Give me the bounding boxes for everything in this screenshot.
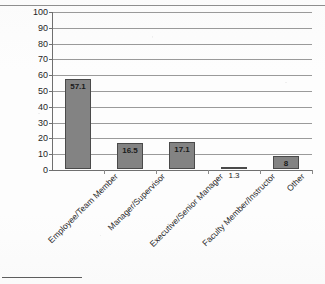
- bar-series: 57.116.517.11.38: [52, 12, 312, 170]
- y-tick-label-100: 100: [8, 8, 48, 17]
- bar-value-label: 16.5: [122, 147, 138, 155]
- x-category-label: Employee/Team Member: [47, 172, 120, 245]
- y-tick-label-80: 80: [8, 40, 48, 49]
- y-tick-label-60: 60: [8, 71, 48, 80]
- bar-value-label: 57.1: [70, 83, 86, 91]
- y-tick-label-40: 40: [8, 103, 48, 112]
- x-category-label: Other: [285, 172, 306, 193]
- bar-slot: 1.3: [208, 167, 260, 169]
- y-tick-label-90: 90: [8, 24, 48, 33]
- bar-slot: 8: [260, 156, 312, 169]
- bar[interactable]: 16.5: [117, 143, 143, 169]
- bar-slot: 17.1: [156, 142, 208, 169]
- y-tick-label-30: 30: [8, 119, 48, 128]
- bar-slot: 57.1: [52, 79, 104, 169]
- bar-value-label: 8: [284, 160, 288, 168]
- y-tick-label-50: 50: [8, 87, 48, 96]
- header-divider-rule: [0, 5, 325, 6]
- y-tick-label-0: 0: [8, 166, 48, 175]
- y-tick-label-20: 20: [8, 134, 48, 143]
- y-tick-label-10: 10: [8, 150, 48, 159]
- x-axis-category-labels: Employee/Team MemberManager/SupervisorEx…: [52, 172, 325, 267]
- footnote-separator-rule: [2, 277, 82, 278]
- chart-plot-area: 0102030405060708090100 57.116.517.11.38: [52, 12, 312, 170]
- bar[interactable]: 17.1: [169, 142, 195, 169]
- y-tick-label-70: 70: [8, 55, 48, 64]
- bar[interactable]: 1.3: [221, 167, 247, 169]
- bar-slot: 16.5: [104, 143, 156, 169]
- y-tick-mark-0: [49, 170, 52, 171]
- bar-value-label: 17.1: [174, 146, 190, 154]
- bar[interactable]: 8: [273, 156, 299, 169]
- bar[interactable]: 57.1: [65, 79, 91, 169]
- x-axis-line: [52, 170, 312, 171]
